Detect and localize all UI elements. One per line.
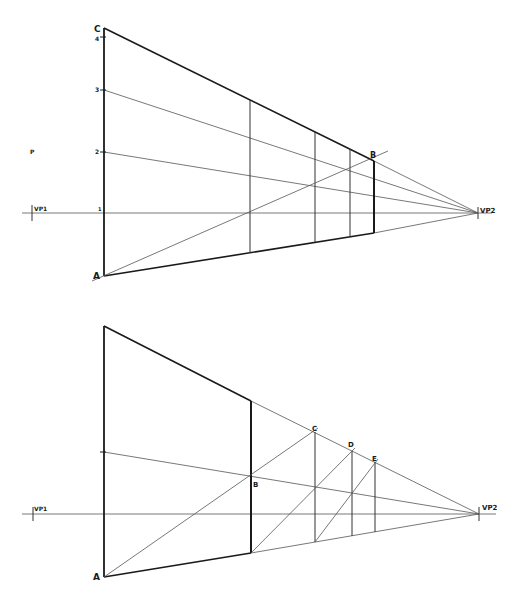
perspective-diagram: C 4 3 2 1 A B VP1 VP2 P: [0, 0, 507, 594]
top-measure-line-3: [104, 90, 478, 213]
label-b-bottom: B: [253, 481, 258, 489]
top-lower-edge-extension: [374, 213, 478, 233]
bottom-upper-edge: [104, 326, 251, 401]
label-vp1-bottom: VP1: [34, 505, 47, 512]
label-4: 4: [95, 35, 99, 42]
label-vp2-top: VP2: [480, 207, 496, 215]
label-d-bottom: D: [348, 441, 354, 449]
top-diagonal-a-b: [92, 151, 388, 281]
label-vp1-top: VP1: [34, 205, 47, 212]
label-2: 2: [95, 148, 99, 155]
label-3: 3: [95, 86, 99, 93]
bottom-lower-edge-extension: [251, 514, 479, 553]
bottom-diagonal-to-e: [315, 459, 378, 542]
label-a-top: A: [93, 271, 100, 281]
label-e-bottom: E: [372, 455, 377, 463]
top-diagram: C 4 3 2 1 A B VP1 VP2 P: [22, 24, 496, 281]
bottom-measure-line: [104, 452, 479, 514]
label-a-bottom: A: [93, 572, 100, 582]
bottom-diagram: A B C D E VP1 VP2: [22, 326, 498, 582]
top-upper-edge: [104, 28, 374, 161]
label-1: 1: [98, 206, 102, 212]
top-upper-edge-extension: [374, 161, 478, 213]
bottom-lower-edge: [104, 553, 251, 577]
label-c-top: C: [94, 24, 101, 34]
bottom-diagonal-a-c: [104, 428, 318, 577]
label-b-top: B: [370, 151, 376, 160]
bottom-upper-edge-extension: [251, 401, 479, 514]
top-measure-line-2: [104, 152, 478, 213]
label-c-bottom: C: [312, 425, 317, 433]
stray-mark: P: [30, 148, 35, 155]
top-lower-edge: [104, 233, 374, 276]
label-vp2-bottom: VP2: [482, 504, 498, 512]
